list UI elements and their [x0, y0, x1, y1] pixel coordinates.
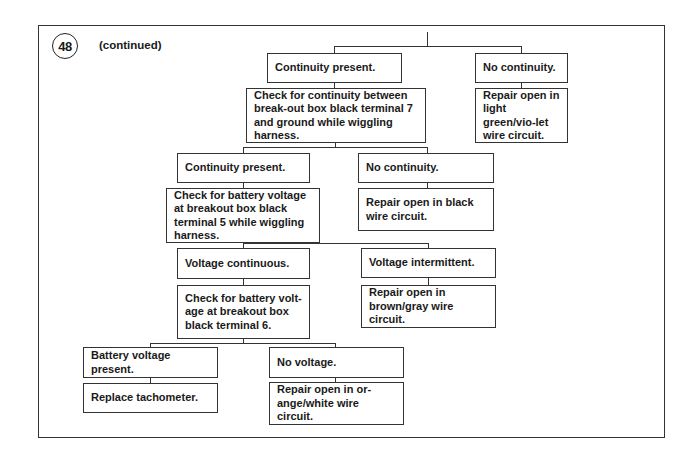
result-no-voltage: No voltage. — [269, 347, 404, 378]
box-text: Continuity present. — [185, 161, 285, 175]
result-voltage-continuous: Voltage continuous. — [177, 248, 310, 279]
result-no-continuity-2: No continuity. — [358, 153, 494, 183]
box-text: Battery voltage present. — [91, 349, 210, 376]
connector-line — [243, 147, 428, 148]
box-text: Check for continuity between break-out b… — [254, 89, 418, 143]
action-repair-light-green-violet: Repair open in light green/vio-let wire … — [475, 88, 568, 143]
box-text: No voltage. — [277, 356, 336, 370]
connector-line — [243, 243, 429, 244]
check-continuity-terminal-7: Check for continuity between break-out b… — [246, 88, 426, 143]
connector-line — [427, 32, 428, 46]
connector-line — [334, 46, 335, 53]
result-battery-voltage-present: Battery voltage present. — [83, 347, 218, 378]
box-text: Repair open in black wire circuit. — [366, 196, 486, 223]
connector-line — [334, 46, 522, 47]
action-repair-brown-gray-wire: Repair open in brown/gray wire circuit. — [361, 285, 496, 328]
action-repair-orange-white-wire: Repair open in or-ange/white wire circui… — [269, 382, 404, 425]
box-text: Check for battery volt-age at breakout b… — [185, 292, 302, 333]
box-text: Repair open in light green/vio-let wire … — [483, 89, 560, 143]
box-text: Check for battery voltage at breakout bo… — [174, 189, 312, 243]
box-text: Voltage intermittent. — [369, 256, 475, 270]
box-text: No continuity. — [366, 161, 439, 175]
box-text: Continuity present. — [275, 61, 375, 75]
result-no-continuity-1: No continuity. — [475, 53, 568, 83]
check-battery-voltage-terminal-5: Check for battery voltage at breakout bo… — [166, 188, 320, 243]
connector-line — [243, 278, 244, 285]
action-repair-black-wire: Repair open in black wire circuit. — [358, 188, 494, 231]
connector-line — [521, 46, 522, 53]
step-number-badge: 48 — [52, 33, 78, 59]
box-text: Voltage continuous. — [185, 257, 289, 271]
box-text: Repair open in or-ange/white wire circui… — [277, 383, 396, 424]
result-voltage-intermittent: Voltage intermittent. — [361, 248, 496, 278]
continued-label: (continued) — [99, 39, 162, 51]
action-replace-tachometer: Replace tachometer. — [83, 383, 218, 413]
result-continuity-present-2: Continuity present. — [177, 153, 310, 183]
check-battery-voltage-terminal-6: Check for battery volt-age at breakout b… — [177, 285, 310, 339]
result-continuity-present-1: Continuity present. — [267, 53, 402, 83]
connector-line — [150, 343, 336, 344]
box-text: No continuity. — [483, 61, 556, 75]
box-text: Replace tachometer. — [91, 391, 198, 405]
box-text: Repair open in brown/gray wire circuit. — [369, 286, 488, 327]
connector-line — [428, 277, 429, 285]
